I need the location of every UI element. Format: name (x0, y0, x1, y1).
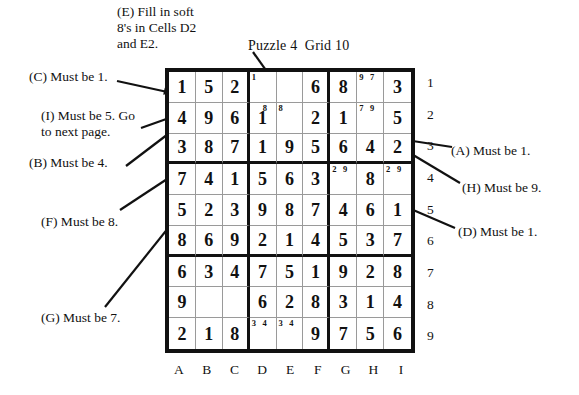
cell-E2[interactable]: 8 (277, 103, 304, 134)
cell-G6[interactable]: 5 (330, 226, 357, 257)
cell-A5[interactable]: 5 (169, 195, 196, 226)
cell-F4[interactable]: 3 (303, 164, 330, 195)
cell-B2[interactable]: 9 (196, 103, 223, 134)
cell-G6-value: 5 (339, 231, 348, 249)
cell-E9[interactable]: 3 4 (277, 318, 304, 349)
cell-B8[interactable] (196, 287, 223, 318)
cell-A4[interactable]: 7 (169, 164, 196, 195)
cell-G5[interactable]: 4 (330, 195, 357, 226)
cell-H9-value: 5 (366, 325, 375, 343)
cell-E3[interactable]: 9 (277, 134, 304, 165)
cell-G4[interactable]: 2 9 (330, 164, 357, 195)
cell-D9[interactable]: 3 4 (250, 318, 277, 349)
cell-F2[interactable]: 2 (303, 103, 330, 134)
cell-H2[interactable]: 7 9 (357, 103, 384, 134)
cell-H3[interactable]: 4 (357, 134, 384, 165)
sudoku-grid[interactable]: 1521689 73496818217 953871956427415632 9… (165, 68, 415, 353)
cell-A7[interactable]: 6 (169, 257, 196, 288)
cell-H1[interactable]: 9 7 (357, 72, 384, 103)
cell-H8[interactable]: 1 (357, 287, 384, 318)
cell-D1[interactable]: 1 (250, 72, 277, 103)
cell-I1[interactable]: 3 (384, 72, 411, 103)
cell-F8[interactable]: 8 (303, 287, 330, 318)
cell-E9-pencil-marks: 3 4 (279, 319, 301, 328)
cell-F5[interactable]: 7 (303, 195, 330, 226)
cell-A6[interactable]: 8 (169, 226, 196, 257)
cell-A5-value: 5 (177, 201, 186, 219)
cell-F9[interactable]: 9 (303, 318, 330, 349)
cell-G9[interactable]: 7 (330, 318, 357, 349)
cell-E4-value: 6 (285, 170, 294, 188)
cell-I9[interactable]: 6 (384, 318, 411, 349)
cell-F1[interactable]: 6 (303, 72, 330, 103)
cell-B1[interactable]: 5 (196, 72, 223, 103)
cell-I7[interactable]: 8 (384, 257, 411, 288)
cell-B6[interactable]: 6 (196, 226, 223, 257)
cell-I6[interactable]: 7 (384, 226, 411, 257)
cell-D4[interactable]: 5 (250, 164, 277, 195)
cell-C5-value: 3 (230, 201, 239, 219)
cell-G7[interactable]: 9 (330, 257, 357, 288)
cell-A3[interactable]: 3 (169, 134, 196, 165)
cell-H6[interactable]: 3 (357, 226, 384, 257)
cell-D2[interactable]: 81 (250, 103, 277, 134)
cell-C6[interactable]: 9 (223, 226, 250, 257)
cell-C2[interactable]: 6 (223, 103, 250, 134)
cell-B7[interactable]: 3 (196, 257, 223, 288)
cell-E4[interactable]: 6 (277, 164, 304, 195)
cell-H9[interactable]: 5 (357, 318, 384, 349)
cell-E8[interactable]: 2 (277, 287, 304, 318)
cell-B3[interactable]: 8 (196, 134, 223, 165)
cell-C4[interactable]: 1 (223, 164, 250, 195)
cell-D3[interactable]: 1 (250, 134, 277, 165)
cell-G3[interactable]: 6 (330, 134, 357, 165)
cell-E7[interactable]: 5 (277, 257, 304, 288)
cell-D7[interactable]: 7 (250, 257, 277, 288)
cell-A3-value: 3 (177, 138, 186, 156)
cell-B9[interactable]: 1 (196, 318, 223, 349)
cell-F7[interactable]: 1 (303, 257, 330, 288)
cell-I4[interactable]: 2 9 (384, 164, 411, 195)
cell-H2-pencil-marks: 7 9 (359, 104, 381, 113)
cell-B5-value: 2 (204, 201, 213, 219)
cell-G8[interactable]: 3 (330, 287, 357, 318)
cell-D5[interactable]: 9 (250, 195, 277, 226)
cell-F3[interactable]: 5 (303, 134, 330, 165)
cell-H4[interactable]: 8 (357, 164, 384, 195)
cell-C7[interactable]: 4 (223, 257, 250, 288)
cell-A2[interactable]: 4 (169, 103, 196, 134)
cell-B4[interactable]: 4 (196, 164, 223, 195)
cell-A8[interactable]: 9 (169, 287, 196, 318)
cell-I5[interactable]: 1 (384, 195, 411, 226)
note-d: (D) Must be 1. (458, 224, 538, 240)
cell-I2[interactable]: 5 (384, 103, 411, 134)
cell-D8[interactable]: 6 (250, 287, 277, 318)
cell-I8[interactable]: 4 (384, 287, 411, 318)
cell-A1-value: 1 (177, 78, 186, 96)
cell-B1-value: 5 (204, 78, 213, 96)
cell-E5[interactable]: 8 (277, 195, 304, 226)
cell-D6[interactable]: 2 (250, 226, 277, 257)
cell-B5[interactable]: 2 (196, 195, 223, 226)
cell-E6[interactable]: 1 (277, 226, 304, 257)
cell-E8-value: 2 (285, 293, 294, 311)
cell-C8[interactable] (223, 287, 250, 318)
cell-C9[interactable]: 8 (223, 318, 250, 349)
cell-A1[interactable]: 1 (169, 72, 196, 103)
cell-G1-value: 8 (339, 78, 348, 96)
cell-C3[interactable]: 7 (223, 134, 250, 165)
cell-C1[interactable]: 2 (223, 72, 250, 103)
cell-G1[interactable]: 8 (330, 72, 357, 103)
cell-E1[interactable] (277, 72, 304, 103)
cell-C5[interactable]: 3 (223, 195, 250, 226)
cell-B7-value: 3 (204, 263, 213, 281)
cell-F6[interactable]: 4 (303, 226, 330, 257)
cell-C3-value: 7 (230, 138, 239, 156)
cell-F7-value: 1 (311, 263, 320, 281)
cell-H5[interactable]: 6 (357, 195, 384, 226)
cell-H7[interactable]: 2 (357, 257, 384, 288)
cell-G2[interactable]: 1 (330, 103, 357, 134)
cell-C9-value: 8 (230, 325, 239, 343)
cell-I3[interactable]: 2 (384, 134, 411, 165)
cell-A9[interactable]: 2 (169, 318, 196, 349)
